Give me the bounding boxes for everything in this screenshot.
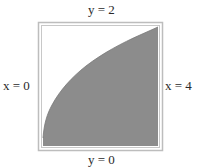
shaded-region xyxy=(43,27,158,146)
left-boundary-label: x = 0 xyxy=(3,79,30,93)
bottom-boundary-label: y = 0 xyxy=(88,153,115,167)
right-boundary-label: x = 4 xyxy=(165,79,192,93)
top-boundary-label: y = 2 xyxy=(88,3,115,17)
